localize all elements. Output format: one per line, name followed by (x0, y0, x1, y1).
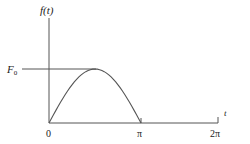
f0-label: F0 (6, 63, 18, 77)
chart: f(t) t 0 π 2π F0 (0, 0, 250, 144)
sine-curve (49, 69, 141, 123)
x-axis-label: t (224, 108, 227, 118)
y-axis-label: f(t) (40, 4, 54, 17)
two-pi-label: 2π (210, 128, 220, 139)
origin-label: 0 (46, 128, 51, 139)
pi-label: π (137, 128, 142, 139)
